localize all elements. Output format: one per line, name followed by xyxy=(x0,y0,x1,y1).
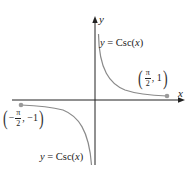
fraction-denominator: 2 xyxy=(16,119,20,128)
fraction-pi-over-2: π 2 xyxy=(145,69,151,88)
fraction-numerator: π xyxy=(145,69,151,79)
fraction-denominator: 2 xyxy=(146,79,150,88)
point-right-rest: , 1 xyxy=(152,73,162,83)
point-label-right: ( π 2 , 1 ) xyxy=(137,68,168,88)
endpoint-right-marker xyxy=(165,94,170,99)
fraction-pi-over-2: π 2 xyxy=(15,109,21,128)
function-label-lower-close: ) xyxy=(80,151,84,162)
y-axis-label: y xyxy=(99,14,104,25)
paren-open: ( xyxy=(3,108,8,128)
fraction-numerator: π xyxy=(15,109,21,119)
endpoint-left-marker xyxy=(19,103,24,108)
y-axis-arrow-icon xyxy=(92,16,97,23)
point-left-minus: − xyxy=(9,113,15,123)
function-label-upper-eq: = Csc( xyxy=(105,37,135,48)
paren-close: ) xyxy=(163,68,168,88)
x-axis-label: x xyxy=(178,88,183,99)
function-label-upper: y = Csc(x) xyxy=(100,38,143,49)
paren-close: ) xyxy=(39,108,44,128)
function-label-lower: y = Csc(x) xyxy=(40,152,83,163)
point-label-left: ( − π 2 , −1 ) xyxy=(2,108,45,128)
point-left-rest: , −1 xyxy=(22,113,38,123)
paren-open: ( xyxy=(138,68,143,88)
csc-graph: y x y = Csc(x) y = Csc(x) ( π 2 , 1 ) ( … xyxy=(0,0,190,172)
function-label-upper-close: ) xyxy=(140,37,144,48)
function-label-lower-eq: = Csc( xyxy=(45,151,75,162)
